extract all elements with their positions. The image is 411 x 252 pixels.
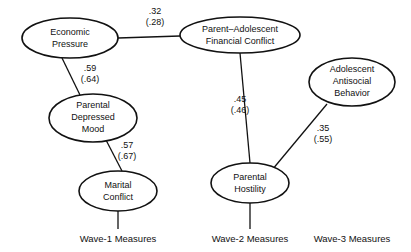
wave-label-wave-1: Wave-1 Measures [80,233,157,244]
node-label-depressed-mood-line3: Mood [82,124,105,134]
path-line-economic-pressure-to-depressed-mood [62,58,80,95]
node-parental-depressed-mood[interactable]: Parental Depressed Mood [49,94,137,142]
node-label-economic-pressure-line2: Pressure [52,39,88,49]
coefficient-economic-pressure-to-financial-conflict: .32 (.28) [146,6,165,27]
wave-label-wave-2: Wave-2 Measures [212,233,289,244]
coefficient-parenthetical-067: (.67) [118,151,137,161]
path-diagram: Economic Pressure Parent–Adolescent Fina… [0,0,411,252]
node-label-antisocial-behavior-line3: Behavior [334,88,370,98]
node-marital-conflict[interactable]: Marital Conflict [79,171,157,211]
node-label-economic-pressure-line1: Economic [50,27,90,37]
node-label-marital-conflict-line2: Conflict [103,192,134,202]
node-label-parental-hostility-line2: Hostility [234,184,266,194]
coefficient-parenthetical-028: (.28) [146,17,165,27]
node-economic-pressure[interactable]: Economic Pressure [22,18,118,58]
coefficient-value-045: .45 [234,94,247,104]
node-adolescent-antisocial-behavior[interactable]: Adolescent Antisocial Behavior [309,58,395,106]
coefficient-parental-hostility-to-antisocial-behavior: .35 (.55) [314,123,333,144]
coefficient-value-035: .35 [317,123,330,133]
node-label-financial-conflict-line1: Parent–Adolescent [202,24,279,34]
node-label-financial-conflict-line2: Financial Conflict [206,36,275,46]
diagram-canvas: Economic Pressure Parent–Adolescent Fina… [0,0,411,252]
path-line-economic-pressure-to-financial-conflict [118,36,180,38]
coefficient-parenthetical-064: (.64) [81,74,100,84]
node-ellipse-parental-hostility [211,163,289,203]
node-label-antisocial-behavior-line2: Antisocial [333,76,372,86]
coefficient-depressed-mood-to-marital-conflict: .57 (.67) [118,140,137,161]
node-ellipse-marital-conflict [79,171,157,211]
node-label-antisocial-behavior-line1: Adolescent [330,64,375,74]
node-label-marital-conflict-line1: Marital [104,180,131,190]
node-label-depressed-mood-line2: Depressed [71,112,115,122]
coefficient-value-059: .59 [84,63,97,73]
node-ellipse-parent-adolescent-financial-conflict [180,17,300,53]
coefficient-economic-pressure-to-depressed-mood: .59 (.64) [81,63,100,84]
node-label-depressed-mood-line1: Parental [76,100,110,110]
node-label-parental-hostility-line1: Parental [233,172,267,182]
node-parental-hostility[interactable]: Parental Hostility [211,163,289,203]
coefficient-value-032: .32 [149,6,162,16]
coefficient-parenthetical-055: (.55) [314,134,333,144]
node-parent-adolescent-financial-conflict[interactable]: Parent–Adolescent Financial Conflict [180,17,300,53]
coefficient-financial-conflict-to-parental-hostility: .45 (.46) [231,94,250,115]
node-ellipse-economic-pressure [22,18,118,58]
wave-label-wave-3: Wave-3 Measures [314,233,391,244]
coefficient-value-057: .57 [121,140,134,150]
coefficient-parenthetical-046: (.46) [231,105,250,115]
